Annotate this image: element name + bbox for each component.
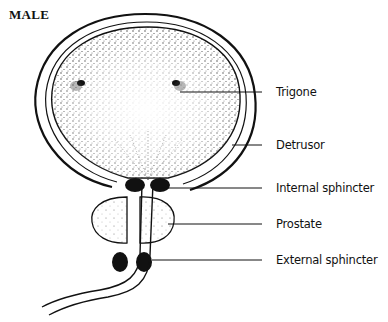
label-trigone: Trigone	[276, 85, 317, 99]
label-internal-sphincter: Internal sphincter	[276, 181, 374, 195]
external-sphincter-shape	[112, 252, 152, 272]
bladder-lumen	[52, 27, 240, 180]
bladder-anatomy-illustration	[0, 0, 388, 322]
internal-sphincter-shape	[125, 178, 170, 192]
label-detrusor: Detrusor	[276, 138, 325, 152]
label-prostate: Prostate	[276, 217, 322, 231]
label-external-sphincter: External sphincter	[276, 253, 377, 267]
urethra	[42, 183, 153, 315]
prostate-shape	[92, 197, 174, 243]
